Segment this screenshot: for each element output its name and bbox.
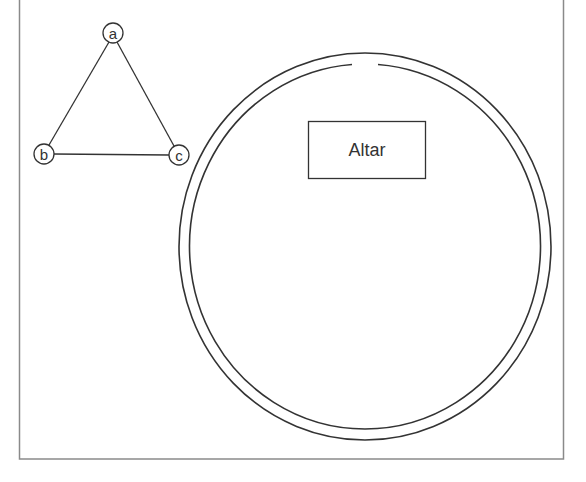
outer-circle <box>179 53 551 440</box>
inner-circle <box>189 65 540 429</box>
edge-b-c <box>54 154 169 155</box>
edge-a-c <box>117 42 174 146</box>
diagram-canvas: a b c Altar <box>0 0 586 482</box>
node-b: b <box>34 144 54 164</box>
node-a: a <box>103 23 123 43</box>
altar-label: Altar <box>348 140 385 160</box>
node-b-label: b <box>40 146 48 163</box>
node-c: c <box>169 145 189 165</box>
edge-a-b <box>49 42 109 145</box>
altar-box: Altar <box>309 122 426 179</box>
node-a-label: a <box>109 25 118 42</box>
node-c-label: c <box>175 147 183 164</box>
graph-edges <box>49 42 174 155</box>
